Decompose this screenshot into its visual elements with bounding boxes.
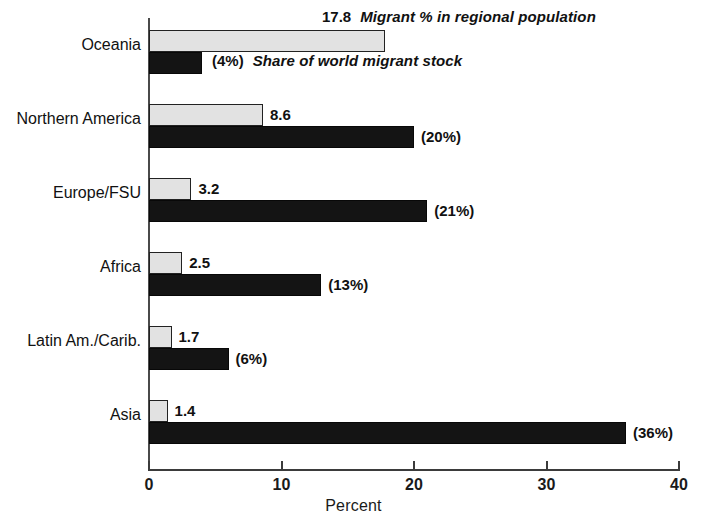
- bar-label-africa-migrant-pct: 2.5: [189, 252, 210, 274]
- bar-oceania-world-share: [149, 52, 202, 74]
- bar-label-northern-america-migrant-pct: 8.6: [270, 104, 291, 126]
- bar-latin-am-carib-migrant-pct: [149, 326, 172, 348]
- x-axis-tick-10: [281, 461, 283, 470]
- bar-africa-world-share: [149, 274, 321, 296]
- x-axis-tick-30: [546, 461, 548, 470]
- x-axis-tick-label-10: 10: [273, 476, 291, 494]
- bar-europe-fsu-migrant-pct: [149, 178, 191, 200]
- y-axis-category-labels: Oceania Northern America Europe/FSU Afri…: [0, 18, 141, 470]
- bar-label-asia-migrant-pct: 1.4: [175, 400, 196, 422]
- bar-northern-america-migrant-pct: [149, 104, 263, 126]
- x-axis-tick-label-0: 0: [145, 476, 154, 494]
- y-axis-label-northern-america: Northern America: [1, 110, 141, 128]
- bar-africa-migrant-pct: [149, 252, 182, 274]
- bar-group-asia: 1.4 (36%): [149, 400, 679, 446]
- bar-label-africa-world-share: (13%): [328, 274, 368, 296]
- bar-group-latin-am-carib: 1.7 (6%): [149, 326, 679, 372]
- bar-oceania-migrant-pct: [149, 30, 385, 52]
- bar-label-europe-fsu-migrant-pct: 3.2: [198, 178, 219, 200]
- x-axis-tick-40: [678, 461, 680, 470]
- bar-group-northern-america: 8.6 (20%): [149, 104, 679, 150]
- x-axis-title: Percent: [0, 497, 707, 515]
- bar-asia-world-share: [149, 422, 626, 444]
- bar-group-europe-fsu: 3.2 (21%): [149, 178, 679, 224]
- bar-latin-am-carib-world-share: [149, 348, 229, 370]
- bar-label-asia-world-share: (36%): [633, 422, 673, 444]
- y-axis-label-oceania: Oceania: [1, 36, 141, 54]
- y-axis-label-latin-am-carib: Latin Am./Carib.: [1, 332, 141, 350]
- bar-northern-america-world-share: [149, 126, 414, 148]
- bar-label-latin-am-carib-migrant-pct: 1.7: [179, 326, 200, 348]
- legend-value-migrant-pct: 17.8: [322, 8, 351, 25]
- bar-europe-fsu-world-share: [149, 200, 427, 222]
- bar-label-northern-america-world-share: (20%): [421, 126, 461, 148]
- bar-label-latin-am-carib-world-share: (6%): [236, 348, 268, 370]
- legend-label-world-share: Share of world migrant stock: [253, 52, 463, 69]
- y-axis-label-africa: Africa: [1, 258, 141, 276]
- x-axis-tick-label-40: 40: [670, 476, 688, 494]
- x-axis-tick-label-20: 20: [405, 476, 423, 494]
- legend-entry-migrant-pct: 17.8Migrant % in regional population: [322, 8, 596, 25]
- chart-container: Oceania Northern America Europe/FSU Afri…: [0, 0, 707, 521]
- bar-label-europe-fsu-world-share: (21%): [434, 200, 474, 222]
- x-axis-tick-label-30: 30: [538, 476, 556, 494]
- y-axis-label-europe-fsu: Europe/FSU: [1, 184, 141, 202]
- legend-value-world-share: (4%): [212, 52, 244, 69]
- x-axis-tick-20: [413, 461, 415, 470]
- legend-entry-world-share: (4%)Share of world migrant stock: [212, 52, 462, 69]
- bar-asia-migrant-pct: [149, 400, 168, 422]
- x-axis-tick-0: [148, 461, 150, 470]
- legend-label-migrant-pct: Migrant % in regional population: [360, 8, 596, 25]
- bar-group-africa: 2.5 (13%): [149, 252, 679, 298]
- y-axis-label-asia: Asia: [1, 406, 141, 424]
- plot-area: 17.8 (4%) 8.6 (20%) 3.2 (21%) 2.5 (13%) …: [149, 18, 679, 470]
